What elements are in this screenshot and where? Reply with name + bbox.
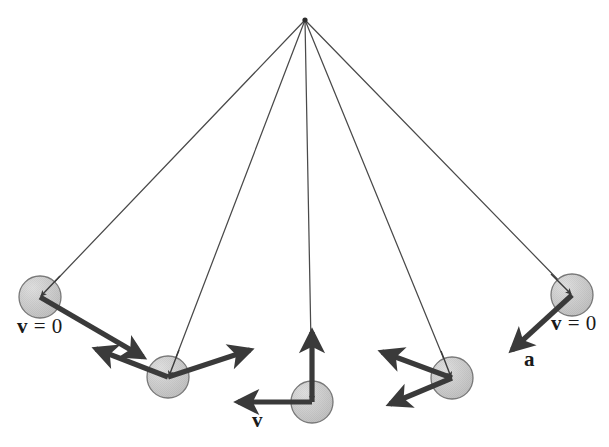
pendulum-diagram: v = 0 v v = 0 a xyxy=(0,0,609,447)
label-v-symbol-right: v xyxy=(551,311,562,335)
string-group xyxy=(44,20,569,398)
pivot-point xyxy=(302,17,307,22)
label-v-equals-zero-right: v = 0 xyxy=(551,313,597,334)
label-v-bottom: v xyxy=(252,410,263,431)
label-v-symbol-bottom: v xyxy=(252,408,263,432)
label-a-right: a xyxy=(524,349,535,370)
label-equals-right: = xyxy=(562,311,586,335)
string-to-bob-2 xyxy=(170,20,305,373)
label-zero-right: 0 xyxy=(586,311,597,335)
label-equals-left: = xyxy=(28,314,52,338)
label-zero-left: 0 xyxy=(52,314,63,338)
label-v-equals-zero-left: v = 0 xyxy=(17,316,63,337)
string-to-bob-1 xyxy=(44,20,305,293)
string-to-bob-4 xyxy=(305,20,450,374)
label-a-symbol-right: a xyxy=(524,347,535,371)
label-v-symbol-left: v xyxy=(17,314,28,338)
pendulum-svg-canvas xyxy=(0,0,609,447)
string-to-bob-5 xyxy=(305,20,569,291)
